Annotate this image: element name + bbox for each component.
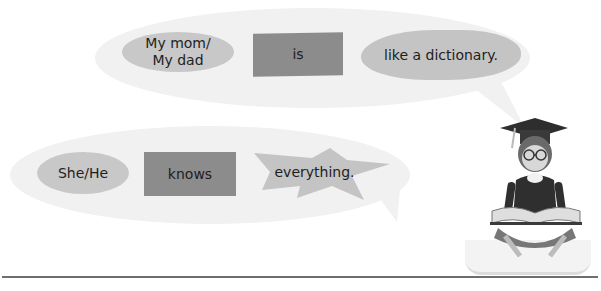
- sentence-2-verb-text: knows: [168, 166, 212, 183]
- sentence-1-subject-line2: My dad: [145, 52, 210, 69]
- sentence-2-verb: knows: [144, 152, 236, 196]
- bottom-divider: [2, 276, 598, 278]
- sentence-2-subject: She/He: [37, 152, 129, 194]
- graduate-reading-illustration: [480, 108, 590, 258]
- sentence-1-subject: My mom/ My dad: [122, 32, 234, 72]
- sentence-1-verb: is: [253, 32, 343, 77]
- sentence-2-complement-text: everything.: [274, 164, 354, 181]
- sentence-2-complement: everything.: [262, 160, 367, 184]
- sentence-1-complement-text: like a dictionary.: [384, 47, 498, 64]
- sentence-1-complement: like a dictionary.: [361, 30, 521, 80]
- sentence-2-subject-text: She/He: [58, 165, 108, 182]
- sentence-1-verb-text: is: [292, 46, 303, 63]
- sentence-1-subject-line1: My mom/: [145, 35, 210, 52]
